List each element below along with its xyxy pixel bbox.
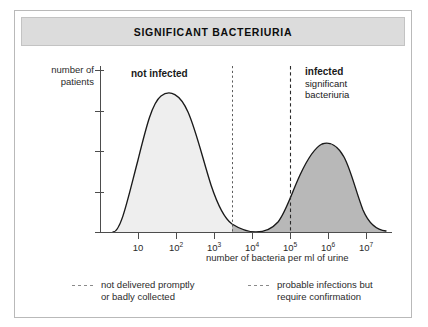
x-tick-label-5: 105	[283, 242, 297, 253]
annotation-not-infected: not infected	[131, 68, 188, 80]
annotation-not-infected-text: not infected	[131, 68, 188, 79]
x-tick-label-3: 103	[207, 242, 221, 253]
dashed-line-icon	[72, 285, 94, 286]
x-tick-label-4: 104	[245, 242, 259, 253]
x-tick-label-6: 106	[321, 242, 335, 253]
x-tick-label-2: 102	[169, 242, 183, 253]
chart-legend: not delivered promptly or badly collecte…	[0, 279, 428, 313]
legend-label-probable-infections: probable infections but require confirma…	[277, 279, 373, 303]
legend-item-not-delivered-promptly: not delivered promptly or badly collecte…	[72, 279, 194, 303]
area-not-infected	[113, 93, 232, 232]
chart-canvas	[0, 0, 428, 327]
x-axis-label: number of bacteria per ml of urine	[206, 252, 349, 264]
annotation-infected-sub-line1: significant	[305, 78, 347, 89]
y-axis-label: number of patients	[28, 64, 94, 87]
legend-item-probable-infections: probable infections but require confirma…	[248, 279, 373, 303]
x-tick-label-1: 10	[133, 242, 144, 253]
area-infected	[232, 143, 386, 232]
legend-label-not-delivered-promptly: not delivered promptly or badly collecte…	[101, 279, 194, 303]
annotation-infected: infected significant bacteriuria	[305, 66, 349, 101]
y-axis-label-line1: number of	[51, 64, 94, 75]
annotation-infected-text: infected	[305, 66, 343, 77]
x-tick-label-7: 107	[359, 242, 373, 253]
y-axis-label-line2: patients	[61, 76, 94, 87]
dashed-line-icon	[248, 285, 270, 286]
annotation-infected-sub-line2: bacteriuria	[305, 89, 349, 100]
